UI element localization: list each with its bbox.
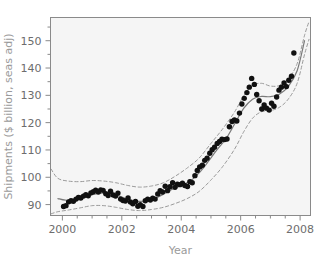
y-tick-label: 90 <box>28 199 42 212</box>
chart-figure: 20002002200420062008 9010011012013014015… <box>0 0 328 264</box>
y-tick-label: 150 <box>21 35 42 48</box>
shipments-scatter-chart: 20002002200420062008 9010011012013014015… <box>0 0 328 264</box>
x-axis-title: Year <box>168 244 193 257</box>
y-tick-label: 120 <box>21 117 42 130</box>
y-tick-label: 140 <box>21 62 42 75</box>
y-tick-label: 100 <box>21 171 42 184</box>
y-tick-label: 130 <box>21 89 42 102</box>
x-tick-label: 2002 <box>108 223 136 236</box>
x-tick-label: 2004 <box>167 223 195 236</box>
x-tick-label: 2000 <box>48 223 76 236</box>
x-tick-label: 2006 <box>227 223 255 236</box>
y-tick-label: 110 <box>21 144 42 157</box>
x-tick-label: 2008 <box>286 223 314 236</box>
y-axis-title: Shipments ($ billion, seas adj) <box>2 33 15 199</box>
